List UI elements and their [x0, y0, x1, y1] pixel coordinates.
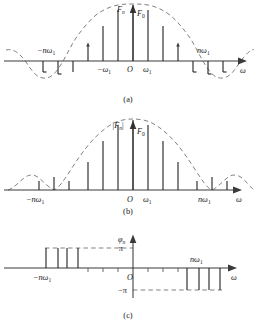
xtick-label-origin-a: O: [127, 65, 133, 74]
stem-tip: [176, 43, 180, 47]
xtick-label-neg-omega1-a: −ω1: [97, 65, 111, 75]
panel-caption-a: (a): [123, 95, 133, 104]
panel-c-svg: φn π −π −nω1 O nω1 ω (c): [0, 218, 257, 328]
stem-group-negative-a: [43, 61, 227, 74]
y-axis-label-a: Fn: [116, 5, 125, 15]
ytick-label-neg-pi: −π: [118, 286, 128, 295]
stem-group-neg-pi-c: [187, 268, 220, 290]
xtick-label-omega1-b: ω1: [143, 195, 152, 205]
xtick-label-n-omega1-b: nω1: [198, 195, 211, 205]
envelope-curve-b: [8, 119, 254, 190]
chart-panel-c: φn π −π −nω1 O nω1 ω (c): [0, 218, 257, 328]
x-axis-label-a: ω: [240, 66, 246, 75]
panel-caption-b: (b): [123, 207, 133, 216]
stem-tip: [86, 43, 90, 47]
x-axis-arrow-b: [233, 187, 242, 194]
x-axis-arrow-c: [228, 265, 237, 272]
xtick-label-origin-c: O: [127, 273, 133, 282]
xtick-label-n-omega1-c: nω1: [190, 255, 203, 265]
xtick-label-omega1-a: ω1: [143, 65, 152, 75]
stem-group-pos-pi-c: [46, 248, 78, 268]
chart-panel-b: |Fn| F0 −nω1 O ω1 nω1 ω (b): [0, 108, 257, 218]
panel-b-svg: |Fn| F0 −nω1 O ω1 nω1 ω (b): [0, 108, 257, 218]
chart-panel-a: Fn F0 −nω1 −ω1 O ω1 nω1 ω (a): [0, 0, 257, 108]
xtick-label-n-omega1-a: nω1: [197, 46, 210, 56]
xtick-label-neg-n-omega1-c: −nω1: [33, 273, 51, 283]
y-axis-label-b: |Fn|: [112, 121, 124, 131]
panel-a-svg: Fn F0 −nω1 −ω1 O ω1 nω1 ω (a): [0, 0, 257, 108]
annotation-F0-a: F0: [136, 9, 145, 19]
y-axis-arrow-c: [130, 235, 137, 244]
x-axis-label-c: ω: [231, 273, 237, 282]
stem-group-b: [39, 120, 227, 190]
figure-container: Fn F0 −nω1 −ω1 O ω1 nω1 ω (a): [0, 0, 257, 328]
ytick-label-pi: π: [119, 244, 124, 253]
x-axis-label-b: ω: [236, 195, 242, 204]
stem-group-positive-a: [86, 5, 180, 61]
annotation-F0-b: F0: [136, 127, 145, 137]
panel-caption-c: (c): [123, 311, 133, 320]
xtick-label-neg-n-omega1-a: −nω1: [37, 46, 55, 56]
xtick-label-origin-b: O: [127, 195, 133, 204]
xtick-label-neg-n-omega1-b: −nω1: [26, 195, 44, 205]
